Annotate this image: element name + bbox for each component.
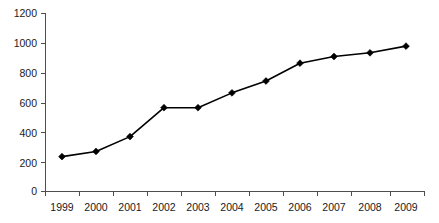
x-tick-label: 2002 (152, 201, 176, 213)
y-tick-label: 1200 (14, 7, 38, 19)
x-axis-labels: 1999 2000 2001 2002 2003 2004 2005 2006 … (50, 201, 418, 213)
y-tick-label: 400 (19, 127, 37, 139)
y-tick-label: 800 (19, 67, 37, 79)
x-tick-label: 2001 (118, 201, 142, 213)
x-tick-label: 2008 (358, 201, 382, 213)
x-tick-label: 2005 (254, 201, 278, 213)
chart-canvas: 1200 1000 800 600 400 200 0 1999 200 (0, 0, 439, 223)
x-tick-label: 2003 (186, 201, 210, 213)
x-tick-label: 2006 (288, 201, 312, 213)
chart-background (0, 0, 439, 223)
x-tick-label: 2009 (394, 201, 418, 213)
y-tick-label: 200 (19, 157, 37, 169)
x-tick-label: 1999 (50, 201, 74, 213)
y-tick-label: 1000 (14, 37, 38, 49)
y-tick-label: 600 (19, 97, 37, 109)
line-chart: 1200 1000 800 600 400 200 0 1999 200 (0, 0, 439, 223)
x-tick-label: 2007 (322, 201, 346, 213)
x-tick-label: 2004 (220, 201, 244, 213)
y-tick-label: 0 (31, 185, 37, 197)
x-tick-label: 2000 (84, 201, 108, 213)
